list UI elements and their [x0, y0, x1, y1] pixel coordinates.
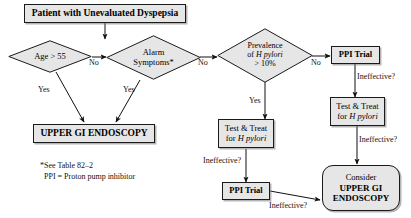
edge-ppi-bottom-to-consider	[270, 191, 320, 200]
node-test-and-treat-left: Test & Treat for H pylori	[218, 119, 274, 148]
prevalence-organism: H pylori	[256, 50, 283, 59]
node-label: PPI Trial	[227, 186, 264, 196]
edge-label-prevalence-no: No	[311, 58, 321, 67]
test-treat-prefix: for	[226, 133, 238, 143]
decision-label-line-3: > 10%	[247, 60, 283, 69]
decision-alarm-symptoms: Alarm Symptoms*	[106, 35, 201, 80]
edge-label-ineffective-test-treat-left: Ineffective?	[203, 156, 241, 165]
node-upper-gi-endoscopy: UPPER GI ENDOSCOPY	[33, 124, 155, 143]
footnote-block: *See Table 82–2 PPI = Proton pump inhibi…	[40, 161, 135, 183]
test-treat-prefix: for	[337, 111, 349, 121]
test-treat-organism: H pylori	[349, 111, 378, 121]
node-ppi-trial-top: PPI Trial	[331, 46, 380, 64]
edge-label-ineffective-test-treat-right: Ineffective?	[359, 135, 397, 144]
prevalence-prefix: of	[247, 50, 256, 59]
node-label-group: Consider UPPER GI ENDOSCOPY	[331, 173, 392, 203]
edge-label-ineffective-ppi-bottom: Ineffective?	[269, 201, 307, 210]
edge-label-age-no: No	[89, 58, 99, 67]
decision-age-over-55: Age > 55	[8, 40, 92, 73]
footnote-line-1: *See Table 82–2	[40, 161, 135, 172]
node-label-line-2: UPPER GI	[333, 183, 390, 193]
node-label-line-3: ENDOSCOPY	[333, 193, 390, 203]
edge-age-yes-to-endoscopy	[56, 72, 84, 122]
edge-label-age-yes: Yes	[38, 85, 50, 94]
node-ppi-trial-bottom: PPI Trial	[222, 182, 270, 200]
decision-prevalence-h-pylori: Prevalence of H pylori > 10%	[217, 28, 313, 83]
edge-label-alarm-yes: Yes	[123, 85, 135, 94]
decision-label: Age > 55	[34, 52, 66, 62]
edge-label-prevalence-yes: Yes	[249, 96, 261, 105]
node-label: Patient with Unevaluated Dyspepsia	[30, 8, 180, 19]
decision-label-line-2: Symptoms*	[133, 58, 174, 68]
node-label: UPPER GI ENDOSCOPY	[38, 128, 149, 139]
node-label: PPI Trial	[337, 50, 374, 60]
node-label-line-1: Consider	[333, 173, 390, 183]
test-treat-organism: H pylori	[238, 133, 267, 143]
edge-label-ineffective-ppi-top: Ineffective?	[357, 72, 395, 81]
footnote-line-2: PPI = Proton pump inhibitor	[40, 172, 135, 183]
node-test-and-treat-right: Test & Treat for H pylori	[330, 97, 385, 126]
node-consider-upper-gi-endoscopy: Consider UPPER GI ENDOSCOPY	[322, 165, 400, 211]
node-label-line-2: for H pylori	[225, 134, 267, 144]
flowchart-canvas: Patient with Unevaluated Dyspepsia Age >…	[0, 0, 411, 218]
decision-label-group: Alarm Symptoms*	[133, 48, 174, 67]
node-patient-with-unevaluated-dyspepsia: Patient with Unevaluated Dyspepsia	[24, 4, 186, 23]
node-label-group: Test & Treat for H pylori	[223, 124, 269, 143]
node-label-line-2: for H pylori	[336, 112, 378, 122]
node-label-group: Test & Treat for H pylori	[334, 102, 380, 121]
edge-label-alarm-no: No	[198, 58, 208, 67]
decision-label-group: Prevalence of H pylori > 10%	[247, 42, 283, 69]
